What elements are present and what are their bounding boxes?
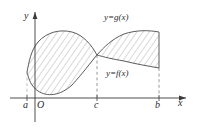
tick-label-b: b [155,100,160,110]
curve-label-g: y=g(x) [104,13,129,22]
x-axis-label: x [178,98,182,108]
curve-label-f: y=f(x) [106,69,129,78]
origin-label: O [37,100,44,110]
figure-container: y x O a c b y=g(x) y=f(x) [0,0,201,129]
y-axis-label: y [24,11,28,21]
figure-canvas [0,0,201,129]
tick-label-a: a [23,100,28,110]
tick-label-c: c [94,100,98,110]
y-axis-arrow-icon [33,12,38,19]
